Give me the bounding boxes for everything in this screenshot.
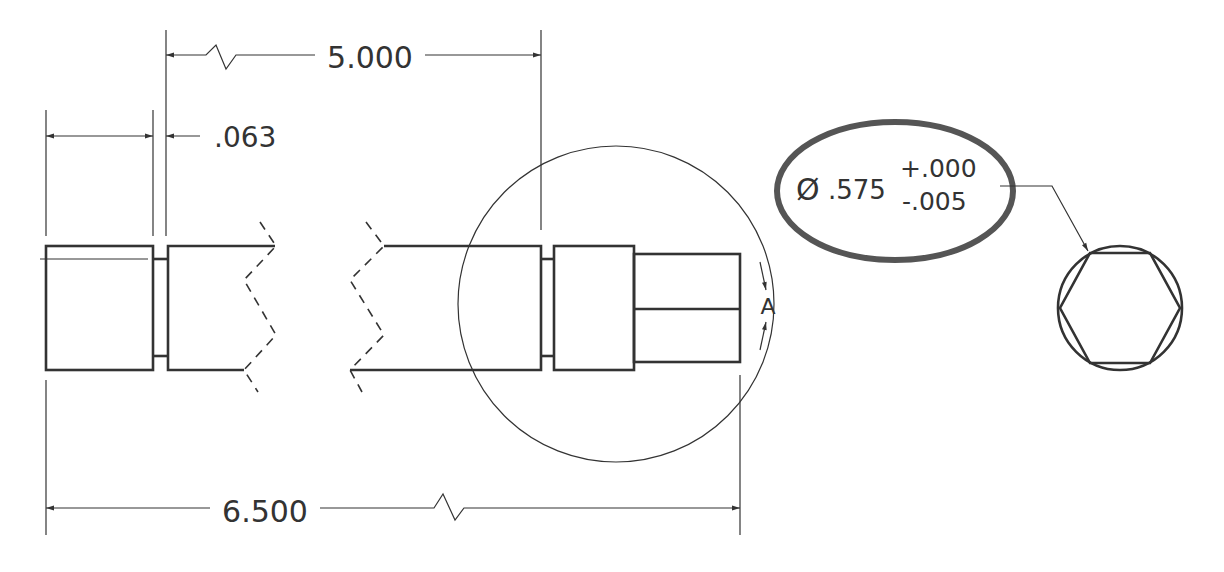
hex-end-segment xyxy=(634,254,740,362)
dimension-5000: 5.000 xyxy=(166,40,541,75)
detail-circle xyxy=(458,146,774,462)
section-label: A xyxy=(760,294,775,319)
shoulder-segment xyxy=(554,246,634,370)
nominal-diameter: .575 xyxy=(828,175,886,205)
upper-tolerance: +.000 xyxy=(900,154,977,183)
dimension-6500-value: 6.500 xyxy=(222,494,308,529)
break-lines xyxy=(244,222,384,392)
shaft-left-segment xyxy=(40,246,153,370)
dimension-5000-value: 5.000 xyxy=(327,40,413,75)
dimension-063-value: .063 xyxy=(214,121,276,154)
groove-right xyxy=(541,259,554,356)
technical-drawing: A 5.000 .063 6.500 Ø .575 +.000 -.005 xyxy=(0,0,1224,572)
diameter-symbol-icon: Ø xyxy=(796,172,820,207)
dimension-063: .063 xyxy=(46,121,276,154)
shaft-middle-segment-right xyxy=(350,246,541,370)
extension-lines xyxy=(46,30,740,535)
lower-tolerance: -.005 xyxy=(902,187,967,216)
dimension-6500: 6.500 xyxy=(46,494,740,529)
tolerance-callout: Ø .575 xyxy=(796,172,886,207)
groove-left xyxy=(153,259,168,356)
hex-end-view xyxy=(1058,246,1182,370)
